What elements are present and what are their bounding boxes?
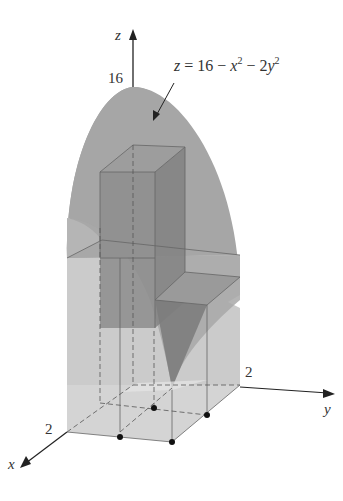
sample-point xyxy=(204,412,210,418)
x-tick-2: 2 xyxy=(45,421,53,438)
sample-point xyxy=(169,439,175,445)
y-axis xyxy=(240,387,328,393)
x-axis-label: x xyxy=(8,456,15,473)
sample-point xyxy=(117,434,123,440)
eq-part2: − 2 xyxy=(242,57,267,74)
eq-y-exp: 2 xyxy=(275,55,280,66)
z-axis-label: z xyxy=(115,27,121,44)
sample-point xyxy=(151,405,157,411)
y-axis-arrowhead xyxy=(323,389,335,398)
eq-part1: = 16 − xyxy=(180,57,230,74)
surface-equation-label: z = 16 − x2 − 2y2 xyxy=(174,57,280,75)
eq-y: y xyxy=(267,57,274,74)
y-tick-2: 2 xyxy=(245,364,253,381)
tall-box-front xyxy=(100,172,155,328)
x-axis-arrowhead xyxy=(20,456,31,468)
y-axis-label: y xyxy=(324,401,331,418)
z-tick-16: 16 xyxy=(108,70,123,87)
z-axis-arrowhead xyxy=(129,29,137,40)
